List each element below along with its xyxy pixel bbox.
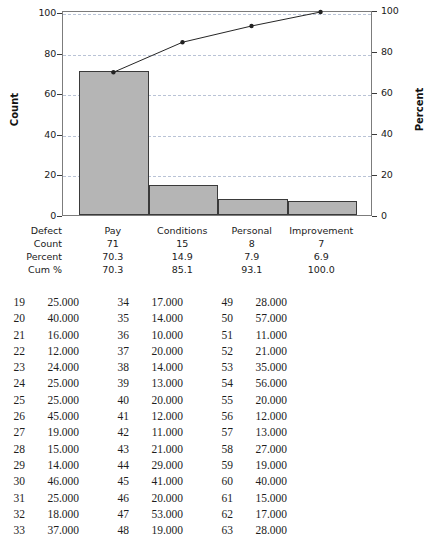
summary-row-label: Count bbox=[0, 237, 63, 250]
y-axis-tick-label: 60 bbox=[44, 88, 56, 99]
y2-axis-tick bbox=[372, 134, 377, 135]
y2-axis-tick bbox=[372, 11, 377, 12]
data-row-value: 20.000 bbox=[135, 343, 183, 359]
y2-axis-tick bbox=[372, 52, 377, 53]
summary-cell: 71 bbox=[74, 237, 152, 250]
data-row-value: 11.000 bbox=[135, 424, 183, 440]
summary-row-label: Defect bbox=[0, 224, 63, 237]
data-row-value: 10.000 bbox=[135, 327, 183, 343]
data-row: 2040.0003514.0005057.000 bbox=[0, 310, 426, 326]
data-row-value: 40.000 bbox=[239, 473, 287, 489]
data-row-index: 50 bbox=[214, 310, 233, 326]
data-row-value: 14.000 bbox=[31, 457, 79, 473]
cumulative-point bbox=[111, 70, 115, 74]
summary-cell: 15 bbox=[143, 237, 221, 250]
data-row-value: 16.000 bbox=[31, 327, 79, 343]
data-row-index: 36 bbox=[110, 327, 129, 343]
y2-axis-tick-label: 100 bbox=[381, 5, 399, 16]
data-row-index: 42 bbox=[110, 424, 129, 440]
data-row-value: 17.000 bbox=[135, 294, 183, 310]
data-row: 2324.0003814.0005335.000 bbox=[0, 359, 426, 375]
data-row-index: 32 bbox=[6, 506, 25, 522]
cumulative-point bbox=[318, 10, 322, 14]
y-axis-title: Count bbox=[9, 80, 20, 140]
data-row-value: 15.000 bbox=[31, 441, 79, 457]
data-row-index: 24 bbox=[6, 375, 25, 391]
data-row-index: 60 bbox=[214, 473, 233, 489]
data-row-value: 13.000 bbox=[135, 375, 183, 391]
y2-axis-title: Percent bbox=[414, 80, 425, 140]
data-row-value: 57.000 bbox=[239, 310, 287, 326]
data-row-value: 12.000 bbox=[31, 343, 79, 359]
y2-axis-tick-label: 20 bbox=[381, 169, 393, 180]
data-row: 3218.0004753.0006217.000 bbox=[0, 506, 426, 522]
data-row-value: 12.000 bbox=[239, 408, 287, 424]
summary-row-label: Percent bbox=[0, 250, 63, 263]
data-row-index: 62 bbox=[214, 506, 233, 522]
data-row-index: 26 bbox=[6, 408, 25, 424]
data-row-value: 17.000 bbox=[239, 506, 287, 522]
data-row: 2645.0004112.0005612.000 bbox=[0, 408, 426, 424]
summary-cell: 93.1 bbox=[213, 263, 291, 276]
data-row-index: 59 bbox=[214, 457, 233, 473]
y-axis-tick-label: 40 bbox=[44, 129, 56, 140]
summary-cell: Personal bbox=[213, 224, 291, 237]
data-row-index: 55 bbox=[214, 392, 233, 408]
summary-cell: 7 bbox=[282, 237, 360, 250]
data-row-index: 61 bbox=[214, 490, 233, 506]
summary-cell: Pay bbox=[74, 224, 152, 237]
data-row-index: 19 bbox=[6, 294, 25, 310]
data-row-value: 37.000 bbox=[31, 522, 79, 538]
cumulative-line-path bbox=[113, 12, 320, 72]
data-row-index: 34 bbox=[110, 294, 129, 310]
summary-row: DefectPayConditionsPersonalImprovement bbox=[0, 224, 426, 237]
data-row-value: 28.000 bbox=[239, 522, 287, 538]
data-row-value: 29.000 bbox=[135, 457, 183, 473]
data-row-value: 24.000 bbox=[31, 359, 79, 375]
data-row-index: 58 bbox=[214, 441, 233, 457]
data-row-index: 43 bbox=[110, 441, 129, 457]
data-row: 2525.0004020.0005520.000 bbox=[0, 392, 426, 408]
y-axis-tick bbox=[57, 216, 62, 217]
data-row-index: 49 bbox=[214, 294, 233, 310]
data-row-index: 37 bbox=[110, 343, 129, 359]
data-row: 1925.0003417.0004928.000 bbox=[0, 294, 426, 310]
data-row-index: 45 bbox=[110, 473, 129, 489]
data-row-index: 40 bbox=[110, 392, 129, 408]
data-row-index: 54 bbox=[214, 375, 233, 391]
data-row-value: 20.000 bbox=[135, 392, 183, 408]
data-row-value: 14.000 bbox=[135, 310, 183, 326]
data-row-index: 46 bbox=[110, 490, 129, 506]
y2-axis-tick-label: 0 bbox=[381, 210, 387, 221]
data-row-index: 21 bbox=[6, 327, 25, 343]
data-row-value: 19.000 bbox=[239, 457, 287, 473]
data-row: 2425.0003913.0005456.000 bbox=[0, 375, 426, 391]
y-axis-tick-label: 0 bbox=[50, 210, 56, 221]
summary-cell: 8 bbox=[213, 237, 291, 250]
data-row-index: 20 bbox=[6, 310, 25, 326]
data-row-value: 45.000 bbox=[31, 408, 79, 424]
data-row-value: 19.000 bbox=[135, 522, 183, 538]
data-row-value: 20.000 bbox=[239, 392, 287, 408]
data-row: 3337.0004819.0006328.000 bbox=[0, 522, 426, 538]
data-row: 2116.0003610.0005111.000 bbox=[0, 327, 426, 343]
data-row-index: 47 bbox=[110, 506, 129, 522]
data-row: 2719.0004211.0005713.000 bbox=[0, 424, 426, 440]
data-row-index: 57 bbox=[214, 424, 233, 440]
data-row-value: 28.000 bbox=[239, 294, 287, 310]
data-row: 2815.0004321.0005827.000 bbox=[0, 441, 426, 457]
data-row-index: 30 bbox=[6, 473, 25, 489]
data-row-value: 13.000 bbox=[239, 424, 287, 440]
y2-axis-tick-label: 80 bbox=[381, 46, 393, 57]
cumulative-point bbox=[180, 40, 184, 44]
data-row-index: 56 bbox=[214, 408, 233, 424]
data-row-value: 25.000 bbox=[31, 294, 79, 310]
data-row-index: 48 bbox=[110, 522, 129, 538]
data-row-value: 19.000 bbox=[31, 424, 79, 440]
summary-row-label: Cum % bbox=[0, 263, 63, 276]
summary-row: Count711587 bbox=[0, 237, 426, 250]
summary-cell: Conditions bbox=[143, 224, 221, 237]
data-row: 2914.0004429.0005919.000 bbox=[0, 457, 426, 473]
data-row-index: 38 bbox=[110, 359, 129, 375]
summary-row: Percent70.314.97.96.9 bbox=[0, 250, 426, 263]
